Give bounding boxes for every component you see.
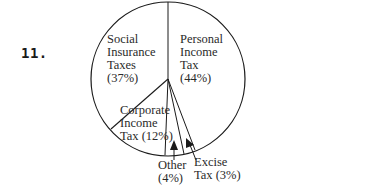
label-social-insurance: Social Insurance Taxes (37%) — [107, 33, 156, 85]
label-corporate-income: Corporate Income Tax (12%) — [120, 104, 173, 143]
label-other: Other (4%) — [158, 159, 186, 185]
label-excise: Excise Tax (3%) — [194, 156, 241, 182]
label-personal-income: Personal Income Tax (44%) — [180, 33, 223, 85]
